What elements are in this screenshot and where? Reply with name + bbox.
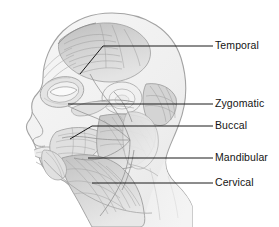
label-buccal: Buccal bbox=[215, 120, 247, 131]
label-mandibular: Mandibular bbox=[215, 152, 268, 163]
label-temporal: Temporal bbox=[215, 40, 259, 51]
label-cervical: Cervical bbox=[215, 177, 254, 188]
label-zygomatic: Zygomatic bbox=[215, 98, 264, 109]
anatomical-illustration bbox=[0, 0, 279, 227]
figure-canvas: Temporal Zygomatic Buccal Mandibular Cer… bbox=[0, 0, 279, 227]
